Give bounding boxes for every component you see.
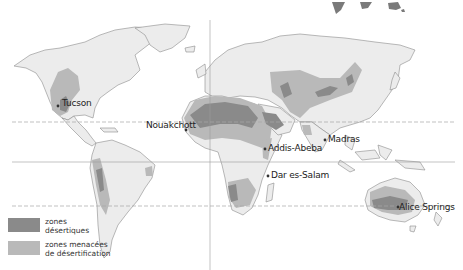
threatened-swatch — [8, 241, 40, 255]
city-dot-tucson — [57, 105, 60, 108]
desert-swatch — [8, 218, 40, 232]
city-label-tucson: Tucson — [62, 99, 91, 108]
legend-item-threatened: zones menacées de désertification — [8, 240, 135, 258]
city-label-dar-es-salam: Dar es-Salam — [271, 171, 329, 180]
legend-desert-line2: désertiques — [45, 226, 135, 235]
central-america — [62, 116, 96, 146]
legend-item-desert: zones désertiques — [8, 217, 135, 235]
legend-threatened-line2: de désertification — [45, 249, 135, 258]
map-legend: zones désertiques zones menacées de dése… — [8, 217, 135, 263]
city-label-nouakchott: Nouakchott — [146, 121, 196, 130]
city-label-madras: Madras — [328, 135, 360, 144]
legend-desert-line1: zones — [45, 217, 135, 226]
locator-mini-map — [332, 2, 405, 14]
city-label-alice-springs: Alice Springs — [399, 203, 455, 212]
city-label-addis-abeba: Addis-Abeba — [268, 144, 322, 153]
legend-threatened-line1: zones menacées — [45, 240, 135, 249]
city-dot-madras — [324, 139, 327, 142]
city-dot-dar-es-salam — [267, 175, 270, 178]
city-dot-addis-abeba — [264, 148, 267, 151]
